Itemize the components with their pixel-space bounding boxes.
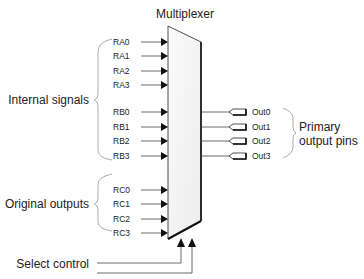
select-line-1 [97,243,192,273]
output-label-out2: Out2 [252,136,271,146]
input-arrow-icon [161,38,168,46]
input-arrow-icon [161,137,168,145]
input-label-rb0: RB0 [113,107,130,117]
mux-body [168,26,201,239]
output-label-line2: output pins [299,134,358,148]
output-label-out3: Out3 [252,151,271,161]
output-label-out0: Out0 [252,107,271,117]
output-label-out1: Out1 [252,122,271,132]
output-pin-icon [229,109,246,115]
input-label-rb3: RB3 [113,151,130,161]
input-arrow-icon [161,108,168,116]
input-label-rb1: RB1 [113,122,130,132]
group-label-original-outputs: Original outputs [5,197,89,211]
brace-internal-signals [94,39,112,160]
input-label-rc3: RC3 [113,228,130,238]
brace-output-pins [283,108,296,158]
input-label-ra0: RA0 [113,37,130,47]
input-label-ra1: RA1 [113,51,130,61]
input-label-rb2: RB2 [113,136,130,146]
input-arrow-icon [161,123,168,131]
select-line-0 [97,243,181,263]
output-pin-icon [229,153,246,159]
group-label-internal-signals: Internal signals [8,93,89,107]
input-arrow-icon [161,186,168,194]
input-label-rc1: RC1 [113,199,130,209]
input-arrow-icon [161,52,168,60]
output-pin-icon [229,138,246,144]
input-arrow-icon [161,215,168,223]
input-label-rc0: RC0 [113,185,130,195]
input-arrow-icon [161,200,168,208]
output-pin-icon [229,124,246,130]
input-label-ra3: RA3 [113,80,130,90]
input-arrow-icon [161,152,168,160]
input-signals: RA0RA1RA2RA3RB0RB1RB2RB3RC0RC1RC2RC3 [113,37,168,238]
select-arrow-0-icon [177,238,185,247]
output-pins: Out0Out1Out2Out3 [201,107,271,161]
output-label-line1: Primary [299,120,340,134]
brace-original-outputs [94,174,112,231]
select-arrow-1-icon [188,238,196,247]
input-label-ra2: RA2 [113,66,130,76]
select-control-label: Select control [16,257,89,271]
mux-title: Multiplexer [156,7,214,21]
input-arrow-icon [161,229,168,237]
input-arrow-icon [161,67,168,75]
input-arrow-icon [161,81,168,89]
input-label-rc2: RC2 [113,214,130,224]
multiplexer-diagram: Multiplexer RA0RA1RA2RA3RB0RB1RB2RB3RC0R… [0,0,364,279]
